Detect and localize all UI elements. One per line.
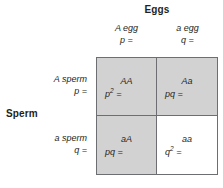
column-header-1-allele: a egg xyxy=(157,22,218,34)
punnett-cell-aa-frequency: q2 = xyxy=(165,147,181,158)
punnett-grid: AA p2 = Aa pq = aA pq = aa q2 = xyxy=(96,57,218,175)
punnett-cell-aA: aA pq = xyxy=(97,116,157,174)
row-header-1-allele: a sperm xyxy=(14,132,87,144)
punnett-cell-Aa-frequency: pq = xyxy=(165,89,183,100)
left-axis-title: Sperm xyxy=(6,108,38,120)
top-axis-title: Eggs xyxy=(96,4,218,16)
punnett-cell-aA-frequency: pq = xyxy=(105,147,123,158)
punnett-cell-AA: AA p2 = xyxy=(97,58,157,116)
punnett-cell-aA-genotype: aA xyxy=(97,134,156,145)
column-header-1: a egg q = xyxy=(157,22,218,46)
punnett-cell-AA-genotype: AA xyxy=(97,76,156,87)
column-header-0-frequency: p = xyxy=(96,34,157,46)
column-header-1-frequency: q = xyxy=(157,34,218,46)
row-header-1-frequency: q = xyxy=(14,144,87,156)
punnett-cell-Aa: Aa pq = xyxy=(157,58,217,116)
column-header-0: A egg p = xyxy=(96,22,157,46)
row-header-0: A sperm p = xyxy=(14,73,92,97)
column-header-0-allele: A egg xyxy=(96,22,157,34)
row-header-0-frequency: p = xyxy=(14,85,87,97)
punnett-square-diagram: Eggs Sperm A egg p = a egg q = A sperm p… xyxy=(0,0,223,188)
row-header-1: a sperm q = xyxy=(14,132,92,156)
punnett-cell-AA-frequency: p2 = xyxy=(105,89,121,100)
row-header-0-allele: A sperm xyxy=(14,73,87,85)
punnett-cell-aa-genotype: aa xyxy=(157,134,217,145)
punnett-cell-Aa-genotype: Aa xyxy=(157,76,217,87)
punnett-cell-aa: aa q2 = xyxy=(157,116,217,174)
